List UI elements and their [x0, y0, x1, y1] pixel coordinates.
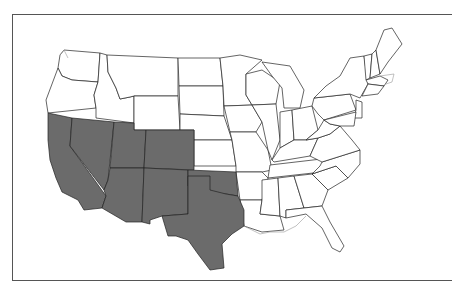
- state-kansas[interactable]: [194, 140, 236, 166]
- state-south-dakota[interactable]: [179, 86, 224, 116]
- state-maine[interactable]: [376, 28, 402, 74]
- state-colorado[interactable]: [144, 130, 194, 170]
- state-north-dakota[interactable]: [178, 58, 223, 86]
- state-arizona[interactable]: [102, 168, 144, 222]
- state-wyoming[interactable]: [134, 96, 180, 130]
- state-new-york[interactable]: [314, 56, 368, 98]
- state-montana[interactable]: [107, 55, 178, 99]
- state-florida[interactable]: [286, 206, 344, 252]
- state-mississippi[interactable]: [260, 178, 280, 216]
